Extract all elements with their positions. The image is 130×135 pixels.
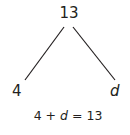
equation-left: 4 bbox=[34, 108, 42, 123]
equation: 4 + d = 13 bbox=[0, 110, 130, 123]
left-branch-line bbox=[25, 27, 64, 80]
equation-equals: = bbox=[72, 108, 82, 123]
equation-variable: d bbox=[60, 108, 68, 123]
equation-right: 13 bbox=[86, 108, 102, 123]
part-right-variable: d bbox=[110, 84, 120, 99]
equation-plus: + bbox=[46, 108, 56, 123]
right-branch-line bbox=[73, 27, 115, 80]
whole-value: 13 bbox=[57, 6, 81, 21]
part-left-value: 4 bbox=[12, 84, 22, 99]
